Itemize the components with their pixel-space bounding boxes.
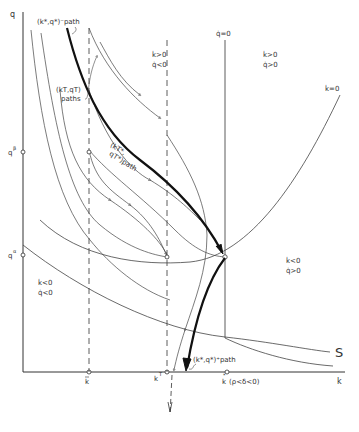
axes: q k xyxy=(10,10,345,386)
trajectory xyxy=(60,90,167,255)
region-kdot-pos-qdot-pos: k̇>0 q̇>0 xyxy=(263,50,278,69)
svg-text:k̇<0: k̇<0 xyxy=(38,278,53,287)
kt-steady-point xyxy=(165,255,169,259)
svg-text:q: q xyxy=(8,149,12,157)
q-dot-zero-locus: q̇=0 xyxy=(216,30,231,338)
trajectory xyxy=(89,90,150,180)
label-saddle-upper: (k*,q*)⁻path xyxy=(37,18,80,34)
svg-text:paths: paths xyxy=(61,95,81,103)
k-dot-zero-locus: k̇=0 xyxy=(40,84,340,263)
region-kdot-neg-qdot-neg: k̇<0 q̇<0 xyxy=(38,278,53,297)
svg-text:q: q xyxy=(8,252,12,260)
svg-text:(k*,q*)⁻path: (k*,q*)⁻path xyxy=(37,18,80,26)
phase-diagram: q k q β q α k k T k * (ρ<δ<0) q̇=0 xyxy=(0,0,359,432)
y-tick-q-beta: q β xyxy=(8,145,25,157)
trajectory xyxy=(174,330,185,370)
trajectory xyxy=(89,150,225,257)
trajectory xyxy=(150,180,200,220)
y-tick-q-alpha: q α xyxy=(8,248,25,260)
region-kdot-pos-qdot-neg: k̇>0 q̇<0 xyxy=(152,50,167,69)
svg-text:(ρ<δ<0): (ρ<δ<0) xyxy=(229,378,260,386)
svg-text:k: k xyxy=(222,378,227,386)
svg-text:q̇<0: q̇<0 xyxy=(38,289,53,297)
trajectory xyxy=(100,42,140,95)
svg-text:(k*,q*)⁺path: (k*,q*)⁺path xyxy=(193,356,236,364)
saddle-path-lower xyxy=(187,258,225,368)
svg-text:β: β xyxy=(13,145,16,152)
svg-text:S: S xyxy=(335,345,343,360)
x-axis-label: k xyxy=(337,377,342,386)
svg-text:k̇>0: k̇>0 xyxy=(152,50,167,59)
k-bar-point xyxy=(87,150,91,154)
svg-text:q̇=0: q̇=0 xyxy=(216,30,231,38)
svg-text:q̇<0: q̇<0 xyxy=(152,61,167,69)
trajectory xyxy=(31,30,170,300)
svg-text:q̇>0: q̇>0 xyxy=(263,61,278,69)
label-saddle-lower: (k*,q*)⁺path xyxy=(189,356,236,369)
region-kdot-neg-qdot-pos: k̇<0 q̇>0 xyxy=(286,256,301,275)
svg-text:k̇=0: k̇=0 xyxy=(325,84,340,93)
svg-text:q̇>0: q̇>0 xyxy=(286,267,301,275)
trajectory xyxy=(89,28,160,118)
svg-text:k̇<0: k̇<0 xyxy=(286,256,301,265)
svg-text:k: k xyxy=(85,378,90,386)
y-axis-label: q xyxy=(10,10,15,19)
svg-text:α: α xyxy=(13,248,17,254)
svg-text:(kT,qT): (kT,qT) xyxy=(56,86,81,94)
svg-text:k̇>0: k̇>0 xyxy=(263,50,278,59)
saddle-path-upper-arrowhead xyxy=(216,244,223,254)
trajectory xyxy=(167,135,207,330)
